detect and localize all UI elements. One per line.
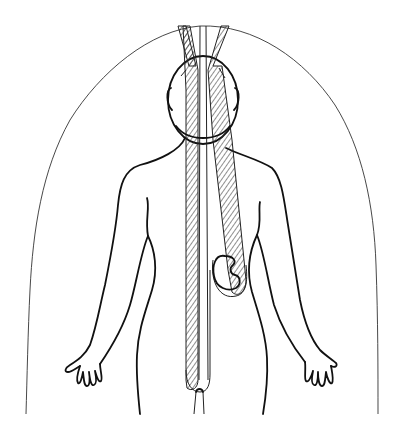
- leg-line-right: [203, 392, 204, 414]
- body-left-shoulder: [66, 138, 185, 372]
- center-channel-right-line: [206, 26, 208, 380]
- left-inner-arm: [100, 198, 148, 364]
- leg-line-left: [194, 392, 196, 414]
- center-channel-left-line: [199, 26, 200, 380]
- right-band: [208, 26, 246, 294]
- left-hand-fingers: [77, 364, 102, 386]
- left-band: [183, 26, 198, 390]
- anatomy-diagram: [0, 0, 404, 436]
- illustration-canvas: [0, 0, 404, 436]
- field-boundary: [26, 26, 378, 414]
- right-hand-fingers: [305, 362, 333, 386]
